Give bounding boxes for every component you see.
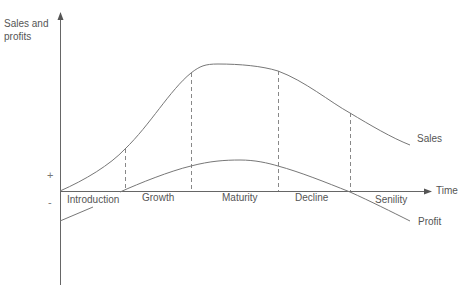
plus-sign: + — [47, 169, 53, 181]
sales-curve-label: Sales — [417, 133, 442, 145]
stage-decline-label: Decline — [295, 192, 328, 204]
stage-maturity-label: Maturity — [222, 192, 258, 204]
minus-sign: - — [48, 196, 52, 208]
profit-curve-label: Profit — [418, 216, 441, 228]
x-axis-label: Time — [436, 185, 458, 197]
profit-curve — [120, 160, 410, 221]
y-axis-label: Sales and profits — [4, 17, 56, 43]
stage-growth-label: Growth — [142, 192, 174, 204]
product-life-cycle-diagram — [0, 0, 464, 291]
profit-curve-intro — [60, 207, 93, 221]
stage-dividers — [126, 71, 351, 191]
stage-senility-label: Senility — [375, 194, 407, 206]
sales-curve — [60, 64, 410, 191]
stage-introduction-label: Introduction — [67, 194, 119, 206]
